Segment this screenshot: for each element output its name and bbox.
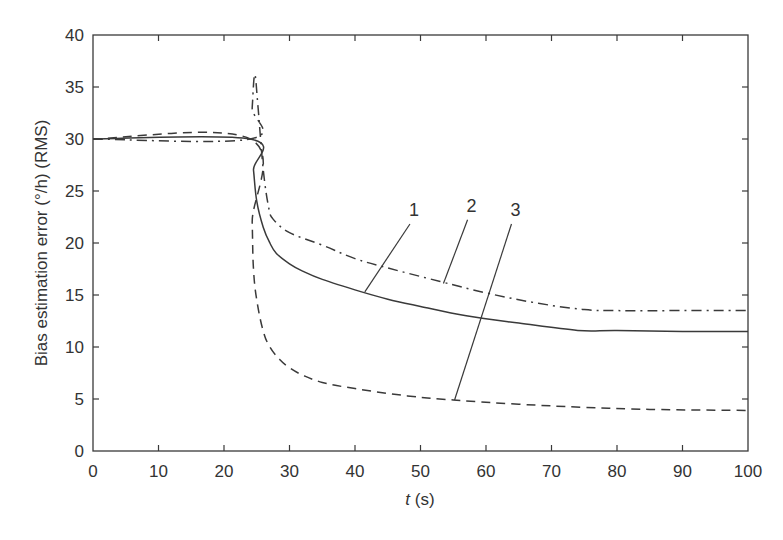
curve-label-2: 2 [467,196,477,216]
y-tick-label: 20 [65,234,84,253]
x-tick-label: 40 [346,462,365,481]
curve-annotations: 123 [365,196,521,400]
x-tick-label: 60 [477,462,496,481]
x-tick-label: 20 [215,462,234,481]
y-tick-label: 5 [75,390,84,409]
x-tick-label: 70 [542,462,561,481]
y-tick-label: 0 [75,442,84,461]
annotation-leader-2 [443,220,467,284]
series-2-line [93,75,748,311]
y-axis-title: Bias estimation error (°/h) (RMS) [32,120,51,367]
x-tick-label: 30 [280,462,299,481]
y-tick-label: 40 [65,26,84,45]
annotation-leader-3 [455,224,512,400]
line-chart: 01020304050607080901000510152025303540 1… [0,0,783,540]
y-tick-label: 25 [65,182,84,201]
series-3-line [93,132,748,410]
annotation-leader-1 [365,224,410,292]
y-tick-label: 15 [65,286,84,305]
x-tick-label: 90 [673,462,692,481]
y-tick-label: 35 [65,78,84,97]
data-series [93,75,748,411]
x-axis-title: t (s) [405,490,434,509]
x-tick-label: 0 [88,462,97,481]
y-tick-label: 10 [65,338,84,357]
y-tick-label: 30 [65,130,84,149]
axis-ticks: 01020304050607080901000510152025303540 [65,26,762,481]
plot-frame [93,35,748,451]
curve-label-3: 3 [510,200,520,220]
series-1-line [93,137,748,332]
x-tick-label: 50 [411,462,430,481]
x-tick-label: 100 [734,462,762,481]
x-tick-label: 10 [149,462,168,481]
curve-label-1: 1 [409,200,419,220]
x-tick-label: 80 [608,462,627,481]
plot-border [93,35,748,451]
